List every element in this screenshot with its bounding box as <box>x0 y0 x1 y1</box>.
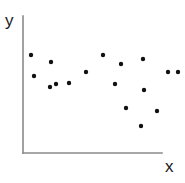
data-point <box>49 60 53 64</box>
data-point <box>48 85 52 89</box>
data-point <box>124 106 128 110</box>
data-point <box>101 53 105 57</box>
data-point <box>54 82 58 86</box>
data-point <box>176 70 180 74</box>
data-point <box>141 57 145 61</box>
data-point <box>67 81 71 85</box>
data-point <box>84 70 88 74</box>
data-point <box>139 124 143 128</box>
scatter-plot-figure: y x <box>0 0 185 183</box>
data-point <box>29 53 33 57</box>
data-point <box>166 70 170 74</box>
data-points-group <box>29 53 180 128</box>
data-point <box>32 74 36 78</box>
plot-canvas <box>0 0 185 183</box>
x-axis-label: x <box>165 158 174 175</box>
data-point <box>113 82 117 86</box>
data-point <box>142 88 146 92</box>
y-axis-label: y <box>5 12 14 29</box>
data-point <box>155 109 159 113</box>
data-point <box>119 62 123 66</box>
axes-group <box>23 16 162 153</box>
